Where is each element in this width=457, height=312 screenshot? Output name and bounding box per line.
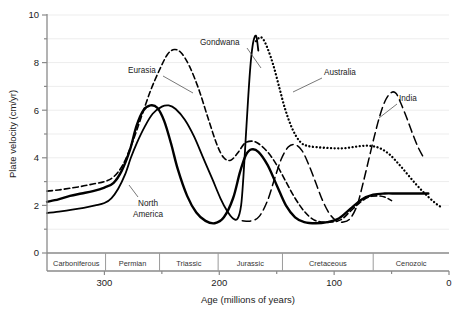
y-tick-label: 0: [34, 247, 39, 258]
y-tick-label: 4: [34, 152, 39, 163]
series-label-gondwana: Gondwana: [200, 38, 240, 47]
period-label-cretaceous: Cretaceous: [309, 259, 347, 268]
x-tick-label: 200: [211, 277, 227, 288]
chart-figure: 02468103002001000CarboniferousPermianTri…: [0, 0, 457, 312]
series-label-eurasia: Eurasia: [128, 66, 156, 75]
series-label-india: India: [399, 94, 417, 103]
series-label-north-america-line1: North: [138, 199, 158, 208]
period-label-triassic: Triassic: [176, 259, 201, 268]
y-tick-label: 6: [34, 105, 39, 116]
x-tick-label: 100: [326, 277, 342, 288]
series-curve-gondwana: [47, 36, 258, 220]
leader-line-eurasia: [163, 76, 193, 93]
x-tick-label: 0: [446, 277, 451, 288]
y-axis-title: Plate velocity (cm/yr): [7, 90, 18, 178]
leader-line-australia: [293, 78, 322, 92]
x-axis-title: Age (millions of years): [201, 294, 295, 305]
period-label-carboniferous: Carboniferous: [53, 259, 100, 268]
period-label-permian: Permian: [119, 259, 147, 268]
series-label-north-america-line2: America: [133, 210, 163, 219]
y-tick-label: 10: [28, 9, 39, 20]
period-label-cenozoic: Cenozoic: [396, 259, 427, 268]
y-tick-label: 8: [34, 57, 39, 68]
leader-line-north-america: [129, 185, 138, 197]
series-label-australia: Australia: [324, 68, 356, 77]
y-tick-label: 2: [34, 200, 39, 211]
series-curve-india: [242, 92, 423, 222]
period-label-jurassic: Jurassic: [237, 259, 264, 268]
plate-velocity-chart: 02468103002001000CarboniferousPermianTri…: [0, 0, 457, 312]
x-tick-label: 300: [96, 277, 112, 288]
